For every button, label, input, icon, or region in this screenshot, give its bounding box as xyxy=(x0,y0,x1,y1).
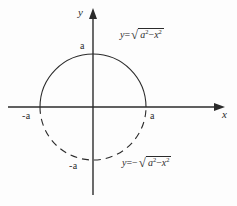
upper-formula-exp2: 2 xyxy=(159,28,162,35)
lower-formula-radicand: a2−x2 xyxy=(146,156,172,168)
circle-function-figure: y x a -a a -a y=√a2−x2 y=−√a2−x2 xyxy=(0,0,237,206)
x-axis-label: x xyxy=(222,108,227,120)
tick-label-y-negative: -a xyxy=(69,160,77,171)
figure-canvas xyxy=(0,0,237,206)
lower-formula-exp2: 2 xyxy=(166,156,169,163)
tick-label-y-positive: a xyxy=(80,40,85,51)
y-axis-arrowhead xyxy=(89,8,97,19)
tick-label-x-positive: a xyxy=(150,110,155,121)
tick-label-x-negative: -a xyxy=(22,110,30,121)
lower-formula-radical: √a2−x2 xyxy=(138,156,172,168)
upper-formula-radicand: a2−x2 xyxy=(138,28,164,40)
y-axis-label: y xyxy=(78,6,83,18)
upper-curve-formula: y=√a2−x2 xyxy=(120,28,164,40)
lower-curve-formula: y=−√a2−x2 xyxy=(122,156,171,168)
upper-formula-radical: √a2−x2 xyxy=(130,28,164,40)
